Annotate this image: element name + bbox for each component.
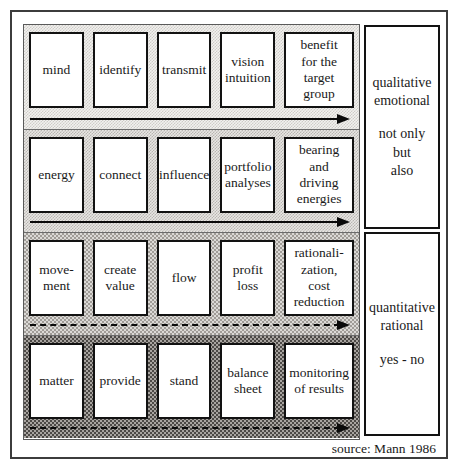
panel-qualitative-label: qualitative emotional	[372, 74, 431, 110]
box-identify: identify	[93, 32, 148, 108]
arrow-shaft	[30, 221, 340, 223]
panel-quantitative-rational: quantitative rational yes - no	[364, 232, 440, 436]
box-rationalization-cost-reduction: rationali- zation, cost reduction	[284, 240, 354, 316]
box-vision-intuition: vision intuition	[220, 32, 275, 108]
box-transmit: transmit	[157, 32, 212, 108]
panel-not-only-but-also-label: not only but also	[379, 125, 425, 180]
box-balance-sheet: balance sheet	[220, 343, 275, 419]
row-movement-level: move- ment create value flow profit loss…	[24, 232, 359, 335]
box-stand: stand	[157, 343, 212, 419]
box-bearing-driving-energies: bearing and driving energies	[284, 137, 354, 213]
box-portfolio-analyses: portfolio analyses	[220, 137, 275, 213]
right-arrow-row3	[30, 320, 350, 330]
panel-qualitative-emotional: qualitative emotional not only but also	[364, 25, 440, 229]
box-matter: matter	[29, 343, 84, 419]
box-mind: mind	[29, 32, 84, 108]
outer-frame: mind identify transmit vision intuition …	[10, 10, 448, 459]
box-flow: flow	[157, 240, 212, 316]
source-credit: source: Mann 1986	[332, 441, 436, 457]
arrowhead-icon	[337, 423, 350, 433]
panel-quantitative-label: quantitative rational	[369, 299, 435, 335]
arrowhead-icon	[337, 320, 350, 330]
diagram-page: mind identify transmit vision intuition …	[0, 0, 453, 467]
row-matter-level: matter provide stand balance sheet monit…	[24, 335, 359, 438]
box-benefit-target-group: benefit for the target group	[284, 32, 354, 108]
stippled-bands: mind identify transmit vision intuition …	[23, 24, 360, 440]
row-energy-level: energy connect influence portfolio analy…	[24, 129, 359, 232]
box-profit-loss: profit loss	[220, 240, 275, 316]
arrowhead-icon	[337, 114, 350, 124]
right-arrow-row1	[30, 114, 350, 124]
right-arrow-row2	[30, 217, 350, 227]
box-connect: connect	[93, 137, 148, 213]
right-arrow-row4	[30, 423, 350, 433]
box-provide: provide	[93, 343, 148, 419]
box-influence: influence	[157, 137, 212, 213]
arrow-shaft	[30, 427, 340, 429]
arrowhead-icon	[337, 217, 350, 227]
panel-yes-no-label: yes - no	[380, 351, 424, 369]
arrow-shaft	[30, 118, 340, 120]
box-energy: energy	[29, 137, 84, 213]
box-monitoring-of-results: monitoring of results	[284, 343, 354, 419]
arrow-shaft	[30, 324, 340, 326]
box-movement: move- ment	[29, 240, 84, 316]
row-mind-level: mind identify transmit vision intuition …	[24, 25, 359, 129]
box-create-value: create value	[93, 240, 148, 316]
